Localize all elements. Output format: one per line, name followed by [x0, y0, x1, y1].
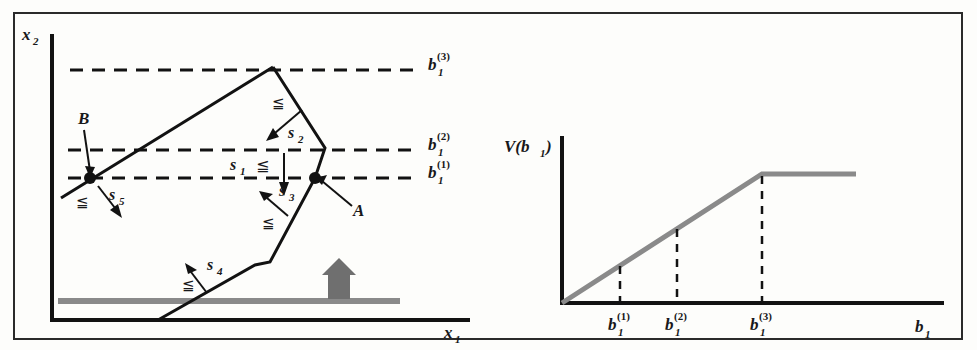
tick-label-b1-2: b	[665, 315, 674, 334]
constraint-label-s4: s	[206, 256, 213, 273]
rhs-level-label-1: b	[428, 163, 437, 182]
normal-arrow-s3	[259, 191, 273, 201]
figure-canvas: x 2 x 1 B A s 1 ≦ s 2 ≦ s 3 ≦ s 4 ≦ s	[0, 0, 977, 350]
vertex-label-B: B	[77, 109, 89, 128]
value-function-curve	[562, 174, 856, 303]
normal-arrow-s4	[185, 263, 197, 274]
left-y-axis-label: x	[21, 25, 31, 44]
constraint-label-s5: s	[108, 186, 115, 203]
constraint-label-s4-sub: 4	[216, 265, 223, 277]
rhs-level-label-3: b	[428, 55, 437, 74]
inequality-glyph-s3: ≦	[262, 214, 275, 232]
left-panel-group: x 2 x 1 B A s 1 ≦ s 2 ≦ s 3 ≦ s 4 ≦ s	[21, 25, 468, 345]
right-y-axis-label-sub: 1	[540, 147, 546, 159]
constraint-label-s2: s	[287, 124, 294, 141]
rhs-level-label-1-sup: (1)	[437, 158, 450, 171]
leader-line-A	[322, 181, 352, 206]
left-y-axis-label-sub: 2	[32, 35, 39, 47]
rhs-level-label-1-sub: 1	[438, 174, 444, 186]
tick-label-b1-3-sup: (3)	[759, 310, 772, 323]
inequality-glyph-s4: ≦	[182, 276, 195, 294]
tick-label-b1-1-sup: (1)	[617, 310, 630, 323]
right-y-axis-label: V(b	[504, 137, 530, 156]
rhs-level-label-3-sup: (3)	[437, 50, 450, 63]
tick-label-b1-2-sub: 1	[675, 326, 681, 338]
right-y-axis-label-close: )	[544, 137, 552, 156]
left-x-axis-label: x	[443, 323, 453, 342]
tick-label-b1-3-sub: 1	[760, 326, 766, 338]
vertex-label-A: A	[352, 201, 364, 220]
house-arrow-icon	[322, 258, 356, 299]
inequality-glyph-s2: ≦	[272, 94, 285, 112]
rhs-level-label-3-sub: 1	[438, 66, 444, 78]
constraint-label-s5-sub: 5	[119, 195, 125, 207]
left-x-axis-label-sub: 1	[455, 333, 461, 345]
figure-root: x 2 x 1 B A s 1 ≦ s 2 ≦ s 3 ≦ s 4 ≦ s	[0, 0, 977, 350]
constraint-label-s3: s	[278, 182, 285, 199]
right-x-axis-label: b	[915, 317, 924, 336]
tick-label-b1-2-sup: (2)	[674, 310, 687, 323]
constraint-label-s1-sub: 1	[240, 165, 246, 177]
inequality-glyph-s5: ≦	[76, 193, 89, 211]
right-panel-group: V(b 1 ) b 1 b 1 (1) b 1 (2) b 1 (3)	[504, 137, 942, 340]
rhs-level-label-2-sub: 1	[438, 146, 444, 158]
leader-line-B	[84, 130, 90, 171]
tick-label-b1-1: b	[608, 315, 617, 334]
right-x-axis-label-sub: 1	[925, 328, 931, 340]
inequality-glyph-s1: ≦	[256, 156, 269, 175]
tick-label-b1-3: b	[750, 315, 759, 334]
tick-label-b1-1-sub: 1	[618, 326, 624, 338]
constraint-label-s3-sub: 3	[288, 191, 295, 203]
constraint-label-s1: s	[229, 156, 236, 173]
rhs-level-label-2: b	[428, 135, 437, 154]
constraint-label-s2-sub: 2	[297, 133, 304, 145]
rhs-level-label-2-sup: (2)	[437, 130, 450, 143]
